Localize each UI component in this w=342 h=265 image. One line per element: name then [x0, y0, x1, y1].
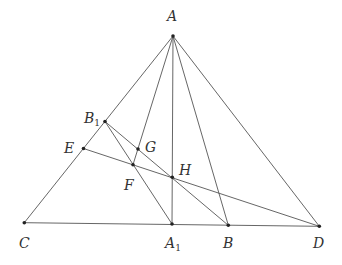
label-b: B: [222, 235, 233, 251]
label-c: C: [19, 235, 30, 251]
segment-a-c: [24, 36, 173, 223]
segment-a-a1: [172, 36, 173, 224]
label-a1: A1: [163, 235, 181, 253]
point-g: [136, 147, 140, 151]
label-d: D: [312, 235, 324, 251]
point-a1: [170, 222, 174, 226]
label-g: G: [145, 139, 156, 155]
point-b: [227, 224, 231, 228]
point-c: [23, 221, 27, 225]
point-a: [171, 34, 175, 38]
segment-a-b: [173, 36, 228, 225]
label-f: F: [123, 177, 135, 193]
label-h: H: [178, 162, 192, 178]
point-e: [82, 147, 86, 151]
geometry-diagram: AB1EGFHCA1BD: [0, 0, 342, 265]
label-b1: B1: [83, 110, 100, 128]
segment-b1-a1: [105, 122, 172, 225]
point-h: [171, 176, 175, 180]
segment-b1-b: [105, 122, 228, 226]
point-f: [131, 163, 135, 167]
segment-e-d: [84, 149, 320, 227]
label-a: A: [165, 8, 177, 24]
point-d: [318, 225, 322, 229]
segments: [24, 36, 319, 226]
point-b1: [103, 120, 107, 124]
label-e: E: [63, 140, 74, 156]
